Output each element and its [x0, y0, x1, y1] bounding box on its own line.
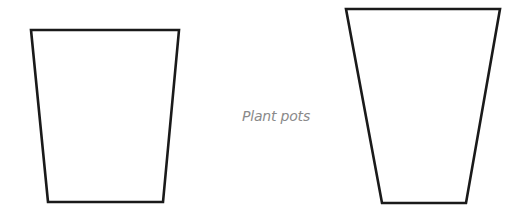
right-plant-pot [346, 9, 500, 203]
diagram-caption: Plant pots [230, 108, 322, 124]
left-plant-pot [31, 30, 179, 202]
diagram-canvas: Plant pots [0, 0, 526, 220]
